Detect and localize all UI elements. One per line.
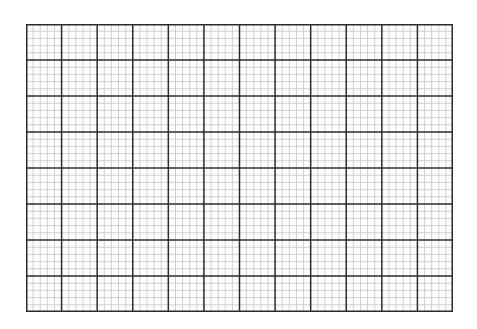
grid-lines [26,24,453,312]
graph-paper-grid [26,24,453,312]
